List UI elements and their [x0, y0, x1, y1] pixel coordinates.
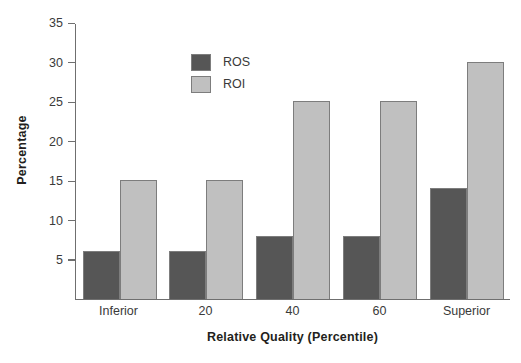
y-axis-title: Percentage: [2, 0, 42, 300]
y-tick-label-10: 10: [49, 214, 63, 228]
x-axis-title: Relative Quality (Percentile): [75, 330, 510, 344]
plot-area: 5101520253035 ROS ROI: [75, 24, 510, 300]
y-tick-20: 20: [68, 141, 75, 142]
y-tick-label-25: 25: [49, 95, 63, 109]
bar-chart-figure: Percentage 5101520253035 ROS ROI Inferio…: [0, 0, 521, 363]
legend-label-roi: ROI: [223, 77, 245, 91]
y-tick-35: 35: [68, 23, 75, 24]
y-tick-label-30: 30: [49, 56, 63, 70]
y-tick-30: 30: [68, 62, 75, 63]
y-tick-label-20: 20: [49, 135, 63, 149]
bar-group: [337, 24, 424, 299]
bar-ros-0: [83, 251, 120, 298]
bar-ros-1: [169, 251, 206, 298]
x-tick-label-3: 60: [336, 304, 423, 318]
legend: ROS ROI: [191, 51, 250, 95]
x-tick-label-1: 20: [162, 304, 249, 318]
bar-ros-4: [430, 188, 467, 298]
y-tick-25: 25: [68, 102, 75, 103]
bar-roi-0: [120, 180, 157, 298]
x-axis-line: [75, 299, 510, 300]
bar-group: [250, 24, 337, 299]
x-tick-label-0: Inferior: [75, 304, 162, 318]
y-tick-5: 5: [68, 259, 75, 260]
bar-ros-2: [256, 236, 293, 299]
bar-roi-2: [293, 101, 330, 298]
bar-roi-4: [467, 62, 504, 299]
x-tick-label-4: Superior: [423, 304, 510, 318]
y-tick-10: 10: [68, 220, 75, 221]
x-tick-label-2: 40: [249, 304, 336, 318]
bar-group: [76, 24, 163, 299]
x-axis-tick-labels: Inferior204060Superior: [75, 304, 510, 318]
bar-roi-3: [380, 101, 417, 298]
bar-group: [423, 24, 510, 299]
y-axis-title-text: Percentage: [15, 115, 29, 184]
bar-series-container: [76, 24, 510, 299]
legend-swatch-ros: [191, 54, 211, 71]
legend-swatch-roi: [191, 76, 211, 93]
legend-item-roi: ROI: [191, 73, 250, 95]
bar-ros-3: [343, 236, 380, 299]
y-tick-label-35: 35: [49, 16, 63, 30]
bar-roi-1: [206, 180, 243, 298]
legend-label-ros: ROS: [223, 55, 250, 69]
y-tick-label-5: 5: [56, 253, 63, 267]
legend-item-ros: ROS: [191, 51, 250, 73]
y-tick-label-15: 15: [49, 174, 63, 188]
y-tick-15: 15: [68, 181, 75, 182]
